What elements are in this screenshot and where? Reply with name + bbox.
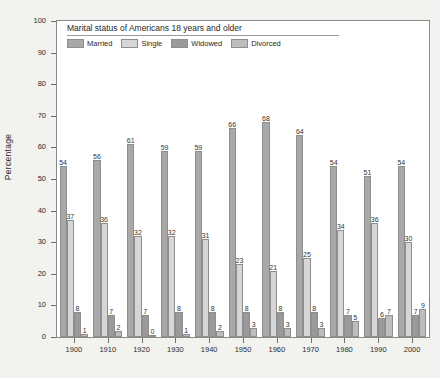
bar-single-1910[interactable]: 36: [101, 223, 108, 337]
bar-value-label: 8: [76, 304, 80, 313]
bar-value-label: 68: [262, 114, 270, 123]
y-axis-tick-label: 10: [38, 300, 46, 310]
y-axis-tick-label: 0: [42, 332, 46, 342]
bar-widowed-1990[interactable]: 6: [378, 318, 385, 337]
bar-married-1920[interactable]: 61: [127, 144, 134, 337]
bar-value-label: 8: [278, 304, 282, 313]
legend-item-label: Widowed: [191, 39, 222, 48]
legend-swatch-icon: [121, 39, 138, 48]
bar-single-1930[interactable]: 32: [168, 236, 175, 337]
legend-item-single[interactable]: Single: [121, 39, 162, 48]
bar-widowed-1960[interactable]: 8: [277, 312, 284, 337]
bar-value-label: 1: [184, 326, 188, 335]
bar-value-label: 54: [330, 158, 338, 167]
chart-title: Marital status of Americans 18 years and…: [67, 23, 339, 36]
x-axis-tick-mark: [378, 338, 379, 343]
bar-value-label: 51: [364, 168, 372, 177]
bar-divorced-1920[interactable]: 0: [149, 335, 156, 337]
bar-single-1960[interactable]: 21: [270, 271, 277, 337]
y-axis-tick-label: 50: [38, 174, 46, 184]
legend-item-label: Divorced: [251, 39, 281, 48]
bar-value-label: 7: [387, 307, 391, 316]
bar-married-1970[interactable]: 64: [296, 135, 303, 337]
bar-married-2000[interactable]: 54: [398, 166, 405, 337]
bar-divorced-1940[interactable]: 2: [216, 331, 223, 337]
bar-single-1900[interactable]: 37: [67, 220, 74, 337]
bar-widowed-1980[interactable]: 7: [344, 315, 351, 337]
x-axis-tick-mark: [142, 338, 143, 343]
bar-value-label: 7: [143, 307, 147, 316]
bar-value-label: 30: [405, 234, 413, 243]
legend-swatch-icon: [231, 39, 248, 48]
bar-married-1950[interactable]: 66: [229, 128, 236, 337]
bar-value-label: 25: [303, 250, 311, 259]
bar-widowed-1910[interactable]: 7: [108, 315, 115, 337]
bar-widowed-1920[interactable]: 7: [142, 315, 149, 337]
x-axis-tick-mark: [74, 338, 75, 343]
bar-value-label: 3: [252, 320, 256, 329]
bar-value-label: 8: [245, 304, 249, 313]
bar-value-label: 9: [421, 301, 425, 310]
bar-value-label: 2: [218, 323, 222, 332]
bar-divorced-1950[interactable]: 3: [250, 328, 257, 337]
bar-value-label: 8: [211, 304, 215, 313]
bar-divorced-1930[interactable]: 1: [183, 334, 190, 337]
bar-single-1990[interactable]: 36: [371, 223, 378, 337]
x-axis-tick-mark: [344, 338, 345, 343]
bar-widowed-1950[interactable]: 8: [243, 312, 250, 337]
chart-figure: 0102030405060708090100Percentage Marital…: [0, 0, 440, 378]
x-axis-tick-mark: [108, 338, 109, 343]
bar-single-1950[interactable]: 23: [236, 264, 243, 337]
bar-single-1970[interactable]: 25: [303, 258, 310, 337]
bar-value-label: 7: [109, 307, 113, 316]
bar-single-2000[interactable]: 30: [405, 242, 412, 337]
chart-legend: MarriedSingleWidowedDivorced: [67, 39, 367, 48]
bar-value-label: 21: [269, 263, 277, 272]
bar-divorced-1900[interactable]: 1: [81, 334, 88, 337]
y-axis-tick-label: 20: [38, 269, 46, 279]
x-axis: 1900191019201930194019501960197019801990…: [56, 338, 430, 364]
y-axis-tick-label: 30: [38, 237, 46, 247]
legend-item-divorced[interactable]: Divorced: [231, 39, 281, 48]
bar-divorced-1970[interactable]: 3: [318, 328, 325, 337]
bar-value-label: 54: [397, 158, 405, 167]
bar-value-label: 59: [194, 143, 202, 152]
legend-item-married[interactable]: Married: [67, 39, 112, 48]
bar-married-1940[interactable]: 59: [195, 151, 202, 337]
bar-value-label: 0: [150, 327, 154, 336]
bar-married-1930[interactable]: 59: [161, 151, 168, 337]
bar-widowed-1900[interactable]: 8: [74, 312, 81, 337]
bar-single-1980[interactable]: 34: [337, 230, 344, 337]
bar-divorced-1980[interactable]: 5: [352, 321, 359, 337]
bar-married-1980[interactable]: 54: [330, 166, 337, 337]
bar-single-1920[interactable]: 32: [134, 236, 141, 337]
bar-married-1900[interactable]: 54: [60, 166, 67, 337]
bar-widowed-2000[interactable]: 7: [412, 315, 419, 337]
bar-married-1990[interactable]: 51: [364, 176, 371, 337]
bar-value-label: 64: [296, 127, 304, 136]
bar-married-1910[interactable]: 56: [93, 160, 100, 337]
bar-value-label: 54: [59, 158, 67, 167]
bar-divorced-1910[interactable]: 2: [115, 331, 122, 337]
bar-single-1940[interactable]: 31: [202, 239, 209, 337]
plot-area: Marital status of Americans 18 years and…: [56, 20, 430, 338]
bar-value-label: 3: [319, 320, 323, 329]
bar-value-label: 61: [127, 136, 135, 145]
legend-item-widowed[interactable]: Widowed: [171, 39, 222, 48]
y-axis-tick-label: 80: [38, 79, 46, 89]
bar-married-1960[interactable]: 68: [262, 122, 269, 337]
bar-widowed-1940[interactable]: 8: [209, 312, 216, 337]
bar-divorced-2000[interactable]: 9: [419, 309, 426, 337]
legend-swatch-icon: [171, 39, 188, 48]
chart-header: Marital status of Americans 18 years and…: [67, 23, 367, 48]
y-axis-tick-label: 90: [38, 48, 46, 58]
bar-value-label: 8: [312, 304, 316, 313]
x-axis-tick-mark: [243, 338, 244, 343]
bar-divorced-1990[interactable]: 7: [385, 315, 392, 337]
bar-divorced-1960[interactable]: 3: [284, 328, 291, 337]
bar-widowed-1970[interactable]: 8: [311, 312, 318, 337]
bar-value-label: 5: [353, 313, 357, 322]
bar-widowed-1930[interactable]: 8: [175, 312, 182, 337]
bar-value-label: 23: [235, 256, 243, 265]
x-axis-tick-mark: [209, 338, 210, 343]
